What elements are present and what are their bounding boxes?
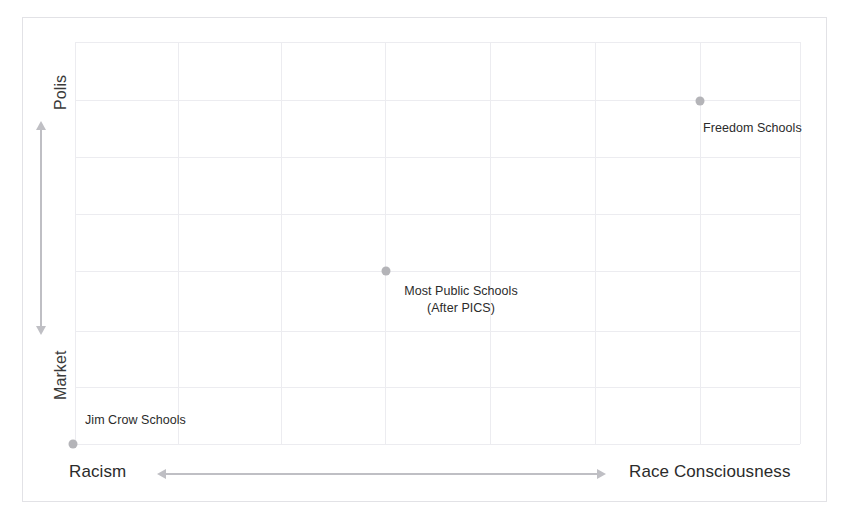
data-point-marker[interactable] — [69, 440, 78, 449]
plot-area-frame — [22, 17, 827, 502]
x-axis-left-pole-label: Racism — [69, 462, 126, 482]
chart-canvas: Polis Market Racism Race Consciousness J… — [0, 0, 846, 522]
data-point-label: Jim Crow Schools — [85, 412, 186, 429]
data-point-label-line-2: (After PICS) — [427, 301, 495, 315]
data-point-label: Freedom Schools — [703, 120, 802, 137]
y-axis-double-arrow-icon — [40, 130, 42, 326]
data-point-marker[interactable] — [382, 267, 391, 276]
x-axis-double-arrow-icon — [166, 473, 597, 475]
x-axis-right-pole-label: Race Consciousness — [629, 462, 791, 482]
data-point-label-line-1: Most Public Schools — [404, 284, 518, 298]
y-axis-bottom-pole-label: Market — [52, 351, 70, 401]
y-axis-top-pole-label: Polis — [52, 75, 70, 110]
data-point-label: Most Public Schools(After PICS) — [404, 283, 518, 317]
data-point-marker[interactable] — [696, 97, 705, 106]
